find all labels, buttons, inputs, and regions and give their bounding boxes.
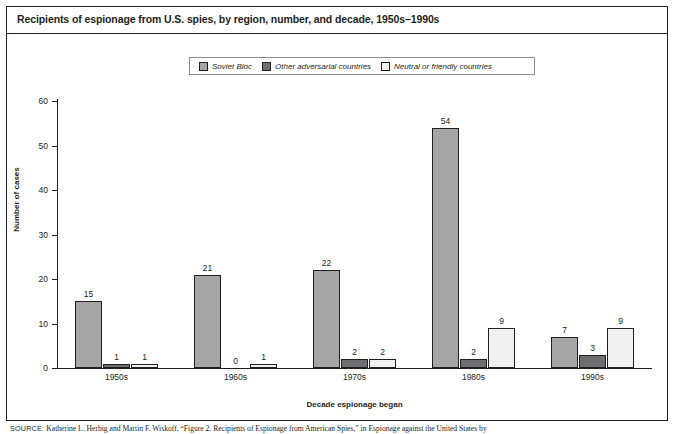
bar-value-label: 54 (426, 116, 466, 126)
y-axis-tick-label: 50 (2, 141, 48, 151)
y-axis-title: Number of cases (12, 140, 21, 260)
bar-1990s-series1 (579, 355, 606, 368)
figure-container: Recipients of espionage from U.S. spies,… (0, 0, 674, 434)
bar-value-label: 22 (307, 258, 347, 268)
y-axis-tick-label: 0 (2, 363, 48, 373)
y-axis-tick (52, 146, 57, 147)
x-axis-line (57, 368, 652, 369)
bar-1950s-series1 (103, 364, 130, 368)
bar-value-label: 7 (545, 325, 585, 335)
y-axis-tick (52, 190, 57, 191)
x-axis-tick-label: 1980s (434, 372, 514, 382)
bar-value-label: 1 (244, 352, 284, 362)
bar-1980s-series1 (460, 359, 487, 368)
y-axis-tick (52, 324, 57, 325)
y-axis-line (57, 99, 58, 369)
y-axis-tick-label: 30 (2, 230, 48, 240)
bar-1970s-series1 (341, 359, 368, 368)
x-axis-tick-label: 1960s (196, 372, 276, 382)
bar-value-label: 15 (69, 289, 109, 299)
bar-1990s-series2 (607, 328, 634, 368)
y-axis-tick (52, 279, 57, 280)
source-label: SOURCE: (10, 424, 44, 433)
bar-1960s-series2 (250, 364, 277, 368)
bar-1970s-series2 (369, 359, 396, 368)
y-axis-tick (52, 368, 57, 369)
y-axis-tick (52, 235, 57, 236)
bar-value-label: 2 (363, 347, 403, 357)
y-axis-tick (52, 101, 57, 102)
bar-1980s-series0 (432, 128, 459, 368)
bar-value-label: 21 (188, 263, 228, 273)
bar-value-label: 9 (482, 316, 522, 326)
y-axis-tick-label: 60 (2, 96, 48, 106)
x-axis-tick-label: 1970s (315, 372, 395, 382)
plot-area: Number of cases Decade espionage began 0… (0, 0, 674, 434)
x-axis-title: Decade espionage began (57, 400, 652, 409)
y-axis-tick-label: 20 (2, 274, 48, 284)
x-axis-tick-label: 1950s (77, 372, 157, 382)
bar-value-label: 9 (601, 316, 641, 326)
bar-1960s-series0 (194, 275, 221, 368)
bar-1980s-series2 (488, 328, 515, 368)
x-axis-tick-label: 1990s (553, 372, 633, 382)
y-axis-tick-label: 10 (2, 319, 48, 329)
y-axis-tick-label: 40 (2, 185, 48, 195)
source-note: SOURCE: Katherine L. Herbig and Martin F… (10, 424, 670, 433)
source-body: Katherine L. Herbig and Martin F. Wiskof… (46, 424, 486, 433)
bar-1950s-series2 (131, 364, 158, 368)
bar-value-label: 1 (125, 352, 165, 362)
